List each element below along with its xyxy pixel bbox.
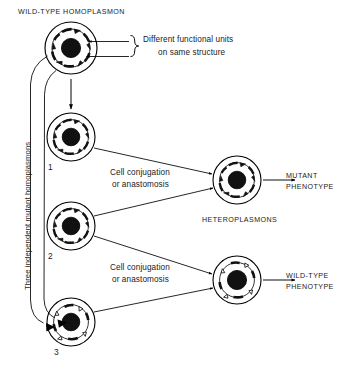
brace-annotation-line1: Different functional units: [143, 35, 233, 45]
page-title: WILD-TYPE HOMOPLASMON: [18, 8, 125, 16]
process-label-top-line1: Cell conjugation: [110, 168, 170, 178]
heteroplasmons-label: HETEROPLASMONS: [202, 216, 277, 224]
connector-mutant3-to-heteroplasmon-wildtype: [94, 288, 213, 312]
process-label-bottom-line1: Cell conjugation: [110, 263, 170, 273]
wildtype-phenotype-line2: PHENOTYPE: [286, 283, 334, 291]
process-label-top-line2: or anastomosis: [112, 180, 169, 190]
cell-mutant-homoplasmon-1: [47, 113, 95, 161]
wildtype-phenotype-line1: WILD-TYPE: [286, 272, 329, 280]
cell-mutant-homoplasmon-3: [47, 298, 95, 346]
lineage-bracket-left: [31, 56, 67, 331]
connector-mutant2-to-heteroplasmon-mutant: [94, 188, 213, 216]
cell-heteroplasmon-mutant: [213, 156, 261, 204]
cell-mutant-homoplasmon-2: [47, 202, 95, 250]
mutant-number-3: 3: [54, 348, 59, 358]
mutant-phenotype-line2: PHENOTYPE: [286, 183, 334, 191]
mutant-number-1: 1: [48, 163, 53, 173]
mutant-phenotype-line1: MUTANT: [286, 172, 318, 180]
brace-annotation-line2: on same structure: [158, 48, 225, 58]
cell-heteroplasmon-wildtype: [213, 256, 261, 304]
lineage-bracket-label: Three independent mutant homoplasmons: [24, 142, 33, 290]
mutant-number-2: 2: [48, 252, 53, 262]
cell-wild-type-homoplasmon: [45, 22, 97, 74]
plasmon-genetics-diagram: WILD-TYPE HOMOPLASMON Different function…: [0, 0, 341, 369]
process-label-bottom-line2: or anastomosis: [112, 275, 169, 285]
